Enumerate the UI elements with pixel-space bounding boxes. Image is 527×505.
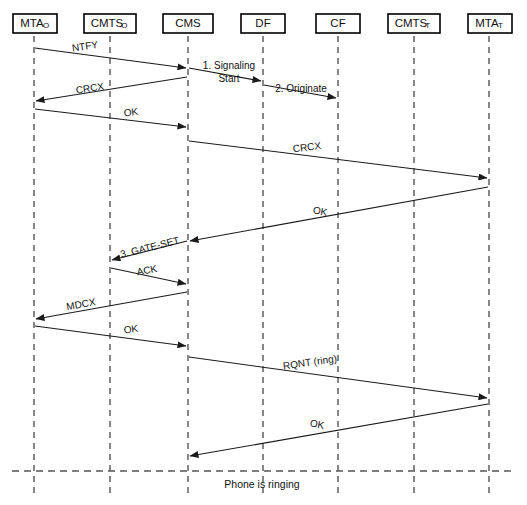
participant-label-df: DF xyxy=(255,17,270,29)
message-arrow-m4 xyxy=(36,77,187,101)
message-m7[interactable]: OK xyxy=(190,187,488,241)
message-label-m12: RQNT (ring) xyxy=(282,353,337,371)
message-m8[interactable]: 3. GATE-SET xyxy=(112,235,187,260)
sequence-diagram-canvas: MTAOCMTSOCMSDFCFCMTSTMTAT NTFY1. Signali… xyxy=(0,0,527,505)
participant-box-cmts_t[interactable]: CMTST xyxy=(388,14,440,33)
message-label-m8: 3. GATE-SET xyxy=(119,235,180,260)
participant-subscript-cmts_t: T xyxy=(425,21,430,30)
message-label-m9: ACK xyxy=(136,263,159,278)
participant-box-mta_t[interactable]: MTAT xyxy=(468,14,512,33)
messages-group: NTFY1. SignalingStart2. OriginateCRCXOKC… xyxy=(35,39,488,456)
message-m13[interactable]: OK xyxy=(190,404,488,456)
participant-box-cmts_o[interactable]: CMTSO xyxy=(84,14,136,33)
message-label-m11: OK xyxy=(123,323,139,336)
participant-label-mta_t: MTA xyxy=(475,17,499,29)
participant-box-mta_o[interactable]: MTAO xyxy=(13,14,57,33)
participant-box-cf[interactable]: CF xyxy=(316,14,360,33)
message-label-m1: NTFY xyxy=(71,39,99,54)
participant-subscript-mta_t: T xyxy=(498,21,503,30)
message-label-m6: CRCX xyxy=(292,140,322,154)
message-arrow-m11 xyxy=(35,326,186,346)
participant-label-cmts_o: CMTS xyxy=(91,17,124,29)
message-label-m3: 2. Originate xyxy=(275,83,327,94)
phase-divider-label: Phone is ringing xyxy=(224,478,299,490)
message-m9[interactable]: ACK xyxy=(111,263,186,284)
message-arrow-m13 xyxy=(190,404,488,456)
participant-label-cf: CF xyxy=(330,17,345,29)
sequence-diagram: MTAOCMTSOCMSDFCFCMTSTMTAT NTFY1. Signali… xyxy=(0,0,527,505)
participant-label-mta_o: MTA xyxy=(20,17,44,29)
message-arrow-m10 xyxy=(36,292,187,319)
phase-divider-group: Phone is ringing xyxy=(12,471,515,490)
participant-box-cms[interactable]: CMS xyxy=(163,14,213,33)
participant-label-cmts_t: CMTS xyxy=(395,17,428,29)
message-arrow-m7 xyxy=(190,187,488,241)
message-label-m7: OK xyxy=(312,204,328,217)
message-label-m10: MDCX xyxy=(65,296,96,312)
participant-subscript-cmts_o: O xyxy=(121,21,127,30)
participant-label-cms: CMS xyxy=(175,17,201,29)
message-m4[interactable]: CRCX xyxy=(36,77,187,101)
message-label-m4: CRCX xyxy=(75,80,105,95)
message-label-m13: OK xyxy=(309,417,325,430)
participant-box-df[interactable]: DF xyxy=(241,14,285,33)
message-label-m5: OK xyxy=(123,106,139,119)
message-m10[interactable]: MDCX xyxy=(36,292,187,319)
message-m3[interactable]: 2. Originate xyxy=(264,83,336,98)
participant-subscript-mta_o: O xyxy=(43,21,49,30)
message-m2[interactable]: 1. SignalingStart xyxy=(189,60,261,84)
